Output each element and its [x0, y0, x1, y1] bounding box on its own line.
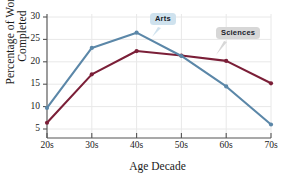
y-axis-title-line2: Completed	[16, 0, 28, 92]
x-axis-title: Age Decade	[40, 160, 275, 172]
x-tick-label: 20s	[34, 140, 60, 150]
chart-figure: 30 25 20 15 10 5 20s 30s 40s 50s 60s 70s…	[0, 0, 283, 179]
data-point	[269, 122, 273, 126]
x-tick-label: 70s	[258, 140, 283, 150]
x-tick-label: 40s	[124, 140, 150, 150]
callout-sciences: Sciences	[216, 27, 260, 39]
data-point	[135, 49, 139, 53]
callout-arts: Arts	[150, 13, 176, 25]
x-tick-label: 50s	[168, 140, 194, 150]
x-tick-label: 30s	[79, 140, 105, 150]
y-tick-label: 10	[20, 101, 40, 111]
y-axis-title-line1: Percentage of Works	[4, 0, 16, 85]
data-point	[135, 31, 139, 35]
data-point	[45, 121, 49, 125]
data-point	[179, 54, 183, 58]
y-axis	[43, 14, 47, 138]
data-point	[45, 106, 49, 110]
data-point	[90, 72, 94, 76]
y-tick-label: 5	[20, 123, 40, 133]
data-point	[224, 59, 228, 63]
x-axis	[47, 133, 271, 138]
series-sciences	[45, 49, 273, 125]
y-axis-title: Percentage of Works Completed	[4, 0, 28, 92]
series-arts	[45, 31, 273, 127]
data-point	[269, 81, 273, 85]
x-tick-label: 60s	[213, 140, 239, 150]
data-point	[224, 84, 228, 88]
data-point	[90, 46, 94, 50]
